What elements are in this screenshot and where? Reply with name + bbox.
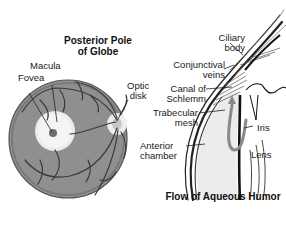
label-ciliary-body: Ciliary body [200,33,245,53]
label-optic-disk: Optic disk [127,81,149,101]
retina-fundus [9,80,128,198]
label-anterior-line-2: chamber [140,151,177,161]
label-trabecular-line-2: mesh [140,118,198,128]
label-optic-disk-line-2: disk [127,91,149,101]
label-conjunctival-line-2: veins [160,70,225,80]
label-iris: Iris [257,123,270,133]
flow-of-aqueous-humor-title: Flow of Aqueous Humor [160,191,286,202]
label-canal-line-2: Schlemm [160,94,206,104]
label-anterior-chamber: Anterior chamber [140,141,177,161]
posterior-pole-title: Posterior Pole of Globe [53,35,143,57]
label-ciliary-line-2: body [200,43,245,53]
label-fovea: Fovea [18,73,44,83]
label-macula: Macula [30,61,61,71]
title-line-2: of Globe [53,46,143,57]
title-line-1: Posterior Pole [53,35,143,46]
label-canal-of-schlemm: Canal of Schlemm [160,84,206,104]
label-trabecular-mesh: Trabecular mesh [140,108,198,128]
label-lens: Lens [251,150,272,160]
label-conjunctival-veins: Conjunctival veins [160,60,225,80]
